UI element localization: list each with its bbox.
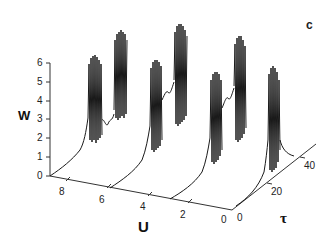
waterfall-plot	[0, 0, 331, 243]
panel-label: c	[306, 18, 313, 32]
w-tick-5: 5	[37, 77, 43, 87]
tau-axis-title: τ	[280, 210, 287, 227]
u-tick-0: 0	[221, 215, 227, 225]
w-tick-3: 3	[37, 114, 43, 124]
tau-tick-40: 40	[304, 161, 315, 171]
w-tick-2: 2	[37, 133, 43, 143]
series-u8	[50, 30, 127, 176]
u-tick-2: 2	[180, 210, 186, 220]
w-axis	[46, 63, 50, 176]
w-tick-6: 6	[37, 58, 43, 68]
u-tick-4: 4	[140, 202, 146, 212]
w-tick-1: 1	[37, 152, 43, 162]
u-tick-8: 8	[59, 187, 65, 197]
u-axis-title: U	[138, 218, 149, 235]
w-axis-title: W	[18, 108, 30, 123]
w-tick-0: 0	[37, 171, 43, 181]
u-tick-6: 6	[99, 195, 105, 205]
tau-tick-20: 20	[271, 187, 282, 197]
tau-tick-0: 0	[237, 213, 243, 223]
w-tick-4: 4	[37, 96, 43, 106]
